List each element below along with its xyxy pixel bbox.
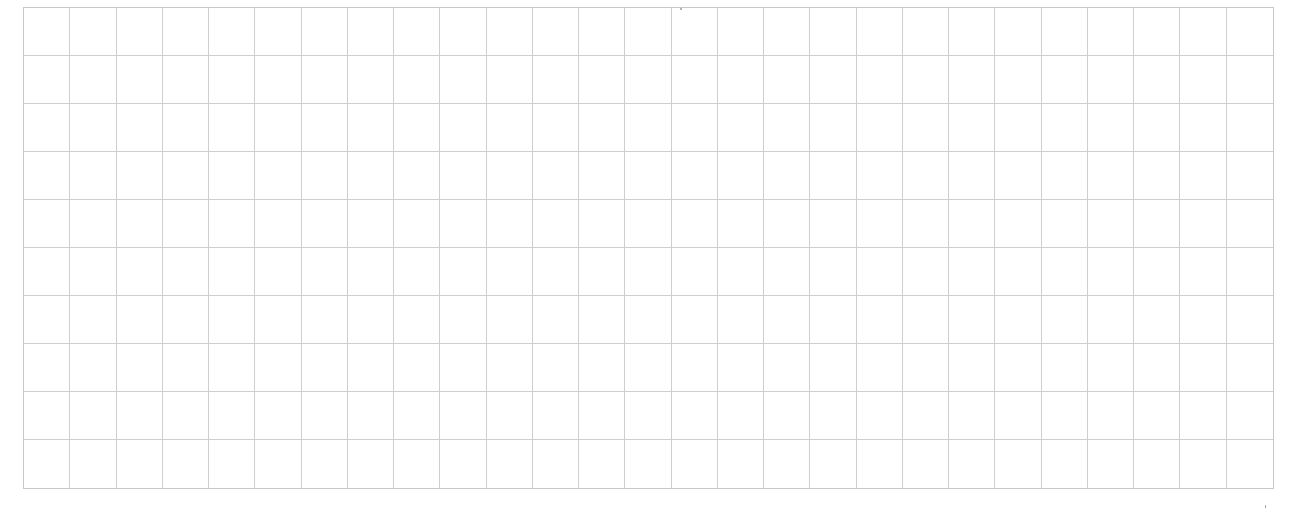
grid-cell (24, 296, 70, 344)
grid-cell (672, 392, 718, 440)
grid-cell (70, 8, 116, 56)
grid-cell (1180, 56, 1226, 104)
grid-cell (1088, 344, 1134, 392)
grid-cell (810, 248, 856, 296)
grid-cell (255, 152, 301, 200)
grid-cell (117, 56, 163, 104)
grid-cell (348, 8, 394, 56)
grid-cell (70, 296, 116, 344)
grid-cell (995, 392, 1041, 440)
grid-cell (949, 104, 995, 152)
grid-cell (857, 344, 903, 392)
grid-cell (255, 248, 301, 296)
grid-cell (903, 56, 949, 104)
grid-cell (903, 248, 949, 296)
grid-cell (117, 152, 163, 200)
grid-cell (1042, 200, 1088, 248)
grid-cell (857, 152, 903, 200)
grid-cell (394, 296, 440, 344)
grid-cell (1134, 200, 1180, 248)
grid-cell (903, 152, 949, 200)
grid-cell (625, 152, 671, 200)
grid-cell (255, 200, 301, 248)
grid-cell (163, 296, 209, 344)
grid-cell (163, 440, 209, 488)
grid-cell (579, 104, 625, 152)
grid-cell (302, 440, 348, 488)
grid-cell (903, 392, 949, 440)
grid-cell (995, 440, 1041, 488)
grid-cell (487, 56, 533, 104)
grid-cell (1227, 344, 1273, 392)
grid-cell (949, 344, 995, 392)
grid-cell (70, 344, 116, 392)
grid-cell (1134, 104, 1180, 152)
grid-cell (440, 248, 486, 296)
grid-cell (70, 392, 116, 440)
grid-cell (857, 8, 903, 56)
grid-sheet (23, 7, 1274, 489)
grid-cell (348, 200, 394, 248)
grid-cell (625, 56, 671, 104)
grid-cell (440, 104, 486, 152)
grid-cell (394, 56, 440, 104)
grid-cell (209, 392, 255, 440)
grid-cell (579, 296, 625, 344)
grid-cell (1134, 296, 1180, 344)
grid-cell (672, 248, 718, 296)
grid-cell (70, 440, 116, 488)
grid-cell (1180, 344, 1226, 392)
grid-cell (533, 248, 579, 296)
grid-cell (533, 56, 579, 104)
grid-cell (1227, 200, 1273, 248)
grid-cell (209, 8, 255, 56)
grid-cell (302, 344, 348, 392)
grid-cell (1088, 104, 1134, 152)
grid-cell (949, 56, 995, 104)
grid-cell (857, 248, 903, 296)
grid-cell (625, 200, 671, 248)
grid-cell (857, 56, 903, 104)
grid-cell (1088, 248, 1134, 296)
grid-cell (1088, 200, 1134, 248)
grid-cell (24, 56, 70, 104)
grid-cell (810, 344, 856, 392)
grid-cell (1042, 440, 1088, 488)
grid-cell (487, 104, 533, 152)
scan-speck (680, 8, 682, 10)
grid-cell (1134, 8, 1180, 56)
grid-cell (394, 200, 440, 248)
grid-cell (995, 296, 1041, 344)
grid-cell (764, 8, 810, 56)
grid-cell (579, 440, 625, 488)
grid-cell (1180, 104, 1226, 152)
grid-cell (163, 200, 209, 248)
grid-cell (209, 152, 255, 200)
grid-cell (24, 392, 70, 440)
grid-cell (718, 56, 764, 104)
grid-cell (718, 392, 764, 440)
grid-cell (810, 56, 856, 104)
grid-cell (163, 344, 209, 392)
grid-cell (487, 344, 533, 392)
grid-cell (209, 440, 255, 488)
grid-cell (533, 200, 579, 248)
grid-cell (163, 104, 209, 152)
grid-cell (302, 8, 348, 56)
grid-cell (857, 200, 903, 248)
grid-cell (579, 344, 625, 392)
grid-cell (718, 296, 764, 344)
grid-cell (348, 344, 394, 392)
grid-cell (209, 56, 255, 104)
grid-cell (394, 392, 440, 440)
grid-cell (209, 296, 255, 344)
grid-cell (117, 392, 163, 440)
grid-cell (625, 440, 671, 488)
grid-cell (440, 392, 486, 440)
grid-cell (394, 344, 440, 392)
grid-cell (255, 8, 301, 56)
grid-cell (579, 8, 625, 56)
grid-cell (1088, 296, 1134, 344)
grid-cell (117, 440, 163, 488)
grid-cell (533, 392, 579, 440)
